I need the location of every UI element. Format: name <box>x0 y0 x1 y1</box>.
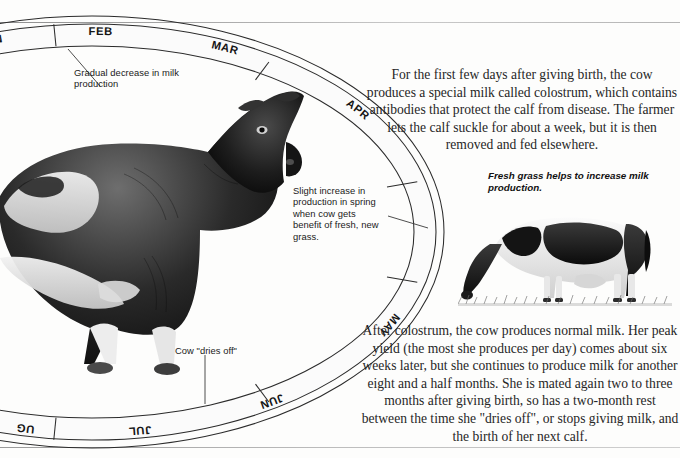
paragraph-after-colostrum: After colostrum, the cow produces normal… <box>360 322 680 445</box>
caption-fresh-grass: Fresh grass helps to increase milk produ… <box>488 170 680 194</box>
callout-gradual-decrease: Gradual decrease in milk production <box>74 67 204 90</box>
callout-slight-increase: Slight increase in production in spring … <box>293 185 385 242</box>
callout-dries-off: Cow "dries off" <box>175 345 285 356</box>
leader-slight-increase <box>388 216 428 228</box>
paragraph-colostrum: For the first few days after giving birt… <box>366 66 678 154</box>
scanned-book-page: AN FEB MAR APR MAY JUN JUL <box>0 0 680 458</box>
